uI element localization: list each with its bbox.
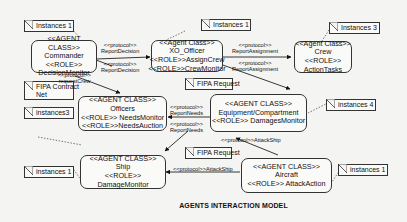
protocol-report-decision-top: <<protocol>> ReportDecision bbox=[101, 42, 139, 55]
note-fipa-request-2: FIPA Request bbox=[185, 147, 232, 159]
agent-equipment-compartment[interactable]: <<AGENT CLASS>> Equipment/Compartment <<… bbox=[210, 94, 307, 132]
protocol-report-decision-bottom: <<protocol>> ReportDecision bbox=[101, 61, 139, 74]
agent-aircraft[interactable]: <<AGENT CLASS>> Aircraft <<ROLE>> Attack… bbox=[241, 158, 332, 193]
note-fold-icon bbox=[329, 22, 338, 31]
note-fold-icon bbox=[24, 166, 33, 175]
agent-ship[interactable]: <<AGENT CLASS>> Ship <<ROLE>> DamageMoni… bbox=[80, 155, 166, 189]
note-ship-instances: instances 1 bbox=[24, 166, 74, 178]
note-fold-icon bbox=[185, 147, 194, 156]
officers-role-2: <<ROLE>>NeedsAuction bbox=[82, 122, 163, 131]
protocol-report-assignment-top: <<protocol>> ReportAssignment bbox=[232, 42, 278, 55]
note-fold-icon bbox=[185, 78, 194, 87]
diagram-title: AGENTS INTERACTION MODEL bbox=[0, 202, 407, 209]
aircraft-role: <<ROLE>> AttackAction bbox=[248, 180, 326, 189]
note-xo-instances: Instances 1 bbox=[201, 19, 251, 31]
equipment-role: <<ROLE>> DamagesMonitor bbox=[212, 117, 305, 126]
note-equipment-instances: instances 4 bbox=[326, 99, 376, 111]
agent-crew[interactable]: <<Agent Class>> Crew <<ROLE>> ActionTask… bbox=[294, 41, 352, 73]
note-commander-instances: Instances 1 bbox=[24, 20, 74, 32]
xo-role-2: <<ROLE>>CrewMonitor bbox=[148, 65, 225, 74]
note-officers-instances: instances3 bbox=[24, 107, 74, 119]
protocol-report-needs-top: <<protocol>> ReportNeeds bbox=[170, 104, 203, 117]
protocol-report-assignment-bottom: <<protocol>> ReportAssignment bbox=[232, 60, 278, 73]
protocol-attack-ship-top: <<protocol>>AttackShip bbox=[221, 137, 281, 143]
note-fipa-request-1: FIPA Request bbox=[185, 78, 233, 90]
protocol-report-needs-bottom: <<protocol>> ReportNeeds bbox=[170, 121, 203, 134]
crew-role: ActionTasks bbox=[304, 66, 342, 75]
note-crew-instances: Instances 3 bbox=[329, 22, 380, 34]
note-aircraft-instances: instances 1 bbox=[338, 164, 388, 176]
ship-role: <<ROLE>> DamageMonitor bbox=[81, 172, 165, 189]
note-fold-icon bbox=[201, 19, 210, 28]
agent-xo-officer[interactable]: <<Agent Class>> XO_Officer <<ROLE>>Assig… bbox=[151, 40, 223, 72]
note-fold-icon bbox=[24, 20, 33, 29]
note-fold-icon bbox=[326, 99, 335, 108]
agent-officers[interactable]: <<AGENT CLASS>> Officers <<ROLE>> NeedsM… bbox=[78, 96, 167, 131]
protocol-request-crew: <<protocol>> requestCrew bbox=[58, 72, 91, 85]
commander-stereotype: <<AGENT CLASS>> bbox=[32, 35, 96, 52]
note-fold-icon bbox=[24, 81, 33, 90]
note-fold-icon bbox=[338, 164, 347, 173]
note-fold-icon bbox=[24, 107, 33, 116]
agent-commander[interactable]: <<AGENT CLASS>> Commander <<ROLE>> Decis… bbox=[31, 40, 97, 73]
protocol-attack-ship-bottom: <<protocol>>AttackShip bbox=[173, 166, 233, 172]
